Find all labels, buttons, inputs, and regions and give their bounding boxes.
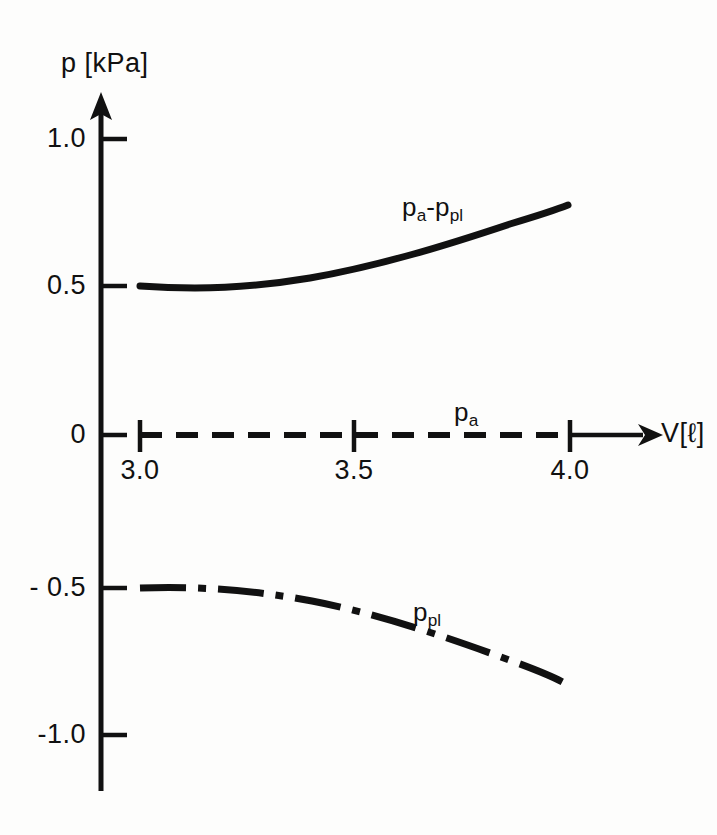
figure-canvas: p [kPa] V[ℓ] 1.0 0.5 0 - 0.5 -1.0 3.0 3.…	[0, 0, 717, 835]
series-label-pa-minus-ppl: pa-ppl	[402, 194, 463, 224]
series-label-ppl-base: p	[413, 597, 428, 627]
x-tick-label-3.0: 3.0	[95, 457, 185, 484]
series-pa-minus-ppl	[140, 205, 568, 288]
y-axis-title: p [kPa]	[61, 50, 149, 77]
y-tick-label-0: 0	[0, 421, 86, 448]
y-axis	[90, 92, 112, 791]
series-label-pa-minus-ppl-sub1: a	[417, 205, 427, 225]
y-axis-ticks	[101, 139, 127, 735]
series-label-ppl-sub: pl	[428, 610, 441, 630]
series-p-pl	[140, 588, 568, 685]
series-label-pa-minus-ppl-sub2: pl	[450, 205, 463, 225]
y-tick-label-0.5: 0.5	[0, 272, 86, 299]
series-label-pa-minus-ppl-base1: p	[402, 192, 417, 222]
x-tick-label-3.5: 3.5	[309, 457, 399, 484]
series-label-pa-sub: a	[469, 410, 479, 430]
series-label-pa-minus-ppl-sep: -	[426, 192, 435, 222]
x-axis-title: V[ℓ]	[661, 420, 705, 447]
x-tick-label-4.0: 4.0	[525, 457, 615, 484]
series-label-pa-base: p	[454, 397, 469, 427]
series-label-pa: pa	[454, 399, 478, 429]
chart-plot-area	[0, 0, 717, 835]
x-axis	[570, 424, 663, 446]
y-tick-label-1.0: 1.0	[0, 125, 86, 152]
y-tick-label-minus-0.5: - 0.5	[0, 574, 86, 601]
series-label-ppl: ppl	[413, 599, 441, 629]
y-tick-label-minus-1.0: -1.0	[0, 721, 86, 748]
series-label-pa-minus-ppl-base2: p	[435, 192, 450, 222]
